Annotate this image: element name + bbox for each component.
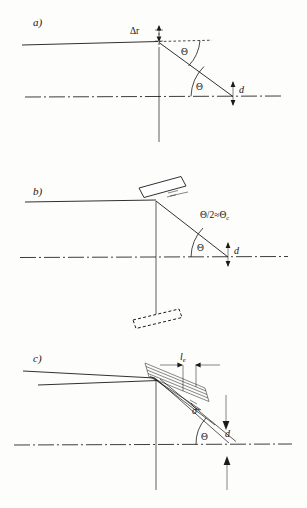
crystal-slab-rotated-b (133, 309, 182, 329)
theta-top-label-a: Θ (181, 47, 188, 57)
panel-c-label: c) (33, 352, 42, 365)
d-label-c: d (225, 428, 231, 439)
d-label-a: d (239, 84, 245, 95)
reference-line-a (159, 40, 212, 41)
incident-beam-a (22, 42, 158, 46)
slab-hatch-b-3 (167, 195, 176, 197)
crystal-slab-b (139, 177, 186, 198)
le-arrowhead-right (177, 363, 183, 368)
incident-beam-c-lower (38, 381, 158, 386)
panel-a-label: a) (33, 16, 43, 29)
up-arrowhead-c (224, 456, 231, 465)
d-arrowhead-up-a (231, 81, 236, 87)
mosaic-stack-right-edge (205, 388, 209, 402)
d-arrowhead-down-b (226, 261, 231, 267)
incident-beam-b (25, 200, 156, 202)
optic-axis-b (20, 257, 288, 258)
panel-b-label: b) (33, 185, 43, 198)
delta-r-arrowhead-up (157, 25, 162, 31)
panel-c: c) le σ (14, 351, 292, 490)
d-label-b: d (234, 245, 240, 256)
sigma-label-c: σ (192, 405, 198, 416)
theta-label-b: Θ (197, 243, 204, 253)
mosaic-stack-left-edge (145, 363, 149, 377)
panel-a: a) Δr Θ Θ d (22, 16, 283, 142)
diagram-svg: a) Δr Θ Θ d b) (0, 0, 307, 508)
d-arrowhead-up-b (226, 242, 231, 248)
figure-canvas: a) Δr Θ Θ d b) (0, 0, 307, 508)
theta-bottom-label-a: Θ (196, 82, 203, 92)
mosaic-lamella-2 (146, 367, 206, 392)
diffracted-edge-c-3 (152, 377, 215, 425)
acceptance-angle-label-b: Θ/2≈Θc (200, 210, 229, 221)
delta-r-label: Δr (130, 26, 140, 36)
panel-b: b) Θ/2≈Θc Θ d (20, 177, 288, 329)
optic-axis-a (25, 96, 283, 97)
incident-beam-c-upper (23, 371, 155, 378)
d-arrowhead-down-a (231, 100, 236, 106)
theta-label-c: Θ (201, 432, 208, 442)
extinction-length-label-c: le (180, 351, 186, 363)
optic-axis-c (14, 444, 292, 445)
theta-arc-top-a (189, 41, 201, 66)
